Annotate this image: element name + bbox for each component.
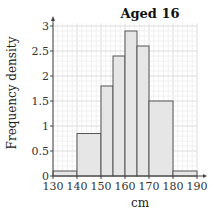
histogram-bar xyxy=(149,101,173,176)
y-tick-label: 2 xyxy=(42,70,49,83)
y-tick-label: 1 xyxy=(42,120,49,133)
x-tick-label: 180 xyxy=(163,180,184,193)
y-tick-label: 1.5 xyxy=(32,95,50,108)
histogram-bar xyxy=(125,31,137,176)
histogram-plot: 00.511.522.53130140150160170180190 xyxy=(0,0,219,218)
x-tick-label: 160 xyxy=(115,180,136,193)
x-tick-label: 170 xyxy=(139,180,160,193)
histogram-bar xyxy=(77,134,101,177)
x-axis-arrow-icon xyxy=(203,174,207,178)
histogram-bar xyxy=(137,46,149,176)
y-tick-label: 0.5 xyxy=(32,145,50,158)
y-axis-arrow-icon xyxy=(51,16,55,21)
histogram-bar xyxy=(53,171,77,176)
y-tick-label: 3 xyxy=(42,20,49,33)
histogram-bar xyxy=(113,56,125,176)
x-tick-label: 140 xyxy=(67,180,88,193)
x-tick-label: 150 xyxy=(91,180,112,193)
x-tick-label: 130 xyxy=(43,180,64,193)
histogram-bar xyxy=(173,171,197,176)
x-tick-label: 190 xyxy=(187,180,208,193)
histogram-bar xyxy=(101,86,113,176)
y-tick-label: 2.5 xyxy=(32,45,50,58)
